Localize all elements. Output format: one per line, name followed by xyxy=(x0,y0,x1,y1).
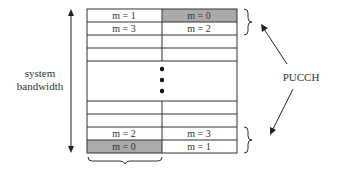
cell-r7-right: m = 1 xyxy=(187,141,210,152)
system-bandwidth-label: system bandwidth xyxy=(10,67,70,93)
cell-r1-left: m = 3 xyxy=(112,23,135,34)
brace-bottom xyxy=(88,157,162,164)
cell-r0-right: m = 0 xyxy=(187,10,210,21)
axis-label-line1: system xyxy=(10,67,70,80)
arrow-down-icon xyxy=(68,146,74,153)
arrow-to-top-brace-icon xyxy=(261,24,268,32)
cell-r0-left: m = 1 xyxy=(112,10,135,21)
axis-label-line2: bandwidth xyxy=(10,80,70,93)
brace-bottom-right xyxy=(244,127,252,153)
vertical-ellipsis-icon xyxy=(160,67,164,93)
cell-r7-left: m = 0 xyxy=(112,141,135,152)
pucch-label: PUCCH xyxy=(276,71,326,84)
cell-r6-right: m = 3 xyxy=(187,128,210,139)
cell-r6-left: m = 2 xyxy=(112,128,135,139)
cell-r1-right: m = 2 xyxy=(187,23,210,34)
brace-top-right xyxy=(244,9,252,35)
arrow-up-icon xyxy=(68,9,74,16)
